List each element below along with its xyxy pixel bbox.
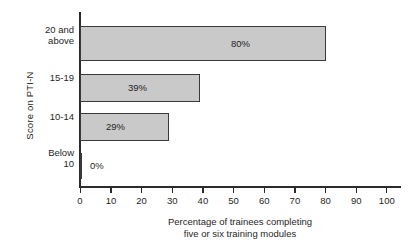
x-tick-label-90: 90 (341, 195, 371, 206)
category-label-column: 20 and above 15-19 10-14 Below 10 (0, 0, 74, 190)
x-tick-label-80: 80 (311, 195, 341, 206)
x-tick-60 (264, 186, 265, 193)
bar-label-15-19: 39% (128, 82, 147, 93)
x-axis-caption: Percentage of trainees completing five o… (79, 216, 401, 239)
x-tick-90 (356, 186, 357, 193)
x-tick-40 (202, 186, 203, 193)
x-tick-50 (233, 186, 234, 193)
x-tick-label-20: 20 (127, 195, 157, 206)
bar-below-10[interactable] (80, 153, 82, 179)
x-tick-label-40: 40 (188, 195, 218, 206)
caption-line-1: Percentage of trainees completing (79, 216, 401, 228)
category-label-20-and-above: 20 and above (0, 24, 74, 46)
bar-label-20-and-above: 80% (231, 38, 250, 49)
x-tick-label-70: 70 (280, 195, 310, 206)
x-tick-0 (80, 186, 81, 193)
caption-line-2: five or six training modules (79, 228, 401, 240)
x-tick-label-50: 50 (219, 195, 249, 206)
category-label-below-10: Below 10 (0, 147, 74, 169)
x-tick-100 (386, 186, 387, 193)
x-tick-70 (294, 186, 295, 193)
category-label-15-19: 15-19 (0, 72, 74, 83)
x-tick-80 (325, 186, 326, 193)
x-tick-label-60: 60 (249, 195, 279, 206)
x-tick-label-10: 10 (96, 195, 126, 206)
x-tick-10 (110, 186, 111, 193)
bar-chart: Score on PTI-N 20 and above 15-19 10-14 … (0, 0, 418, 248)
x-tick-30 (172, 186, 173, 193)
plot-area: 80% 39% 29% 0% 0 10 20 30 40 50 60 70 80… (79, 12, 401, 190)
x-tick-20 (141, 186, 142, 193)
x-tick-label-0: 0 (65, 195, 95, 206)
x-axis-line (79, 186, 401, 188)
category-label-10-14: 10-14 (0, 111, 74, 122)
bar-label-10-14: 29% (106, 121, 125, 132)
bar-20-and-above[interactable] (80, 26, 326, 61)
x-tick-label-100: 100 (372, 195, 402, 206)
bar-label-below-10: 0% (90, 160, 104, 171)
x-tick-label-30: 30 (157, 195, 187, 206)
